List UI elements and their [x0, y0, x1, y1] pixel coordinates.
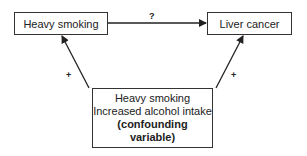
edge-label-question: ?: [149, 11, 155, 21]
node-heavy-smoking: Heavy smoking: [14, 12, 108, 35]
node-label: Heavy smoking: [23, 18, 98, 30]
node-label: Liver cancer: [220, 18, 280, 30]
confounder-line3: (confounding: [117, 118, 187, 131]
confounder-line2: Increased alcohol intake: [93, 105, 212, 118]
edge-label-plus-left: +: [66, 70, 71, 80]
arrow-confounder-to-exposure: [62, 36, 89, 88]
node-liver-cancer: Liver cancer: [207, 12, 292, 35]
confounder-line4: variable): [130, 131, 175, 144]
confounder-line1: Heavy smoking: [115, 92, 190, 105]
node-confounder: Heavy smoking Increased alcohol intake (…: [92, 88, 213, 148]
arrow-confounder-to-outcome: [216, 36, 243, 88]
edge-label-plus-right: +: [231, 70, 236, 80]
